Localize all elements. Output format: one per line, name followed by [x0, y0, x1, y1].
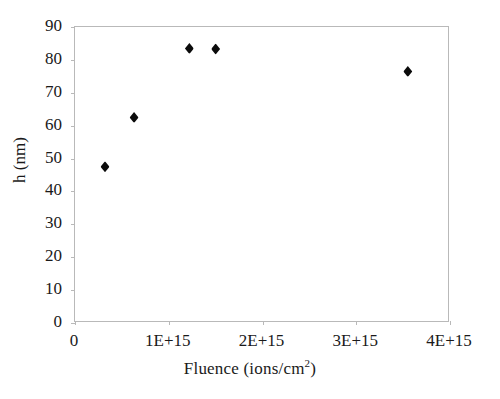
y-tick-mark — [71, 93, 75, 94]
x-tick-label: 3E+15 — [333, 332, 378, 349]
y-tick-mark — [71, 126, 75, 127]
plot-area — [74, 26, 449, 322]
x-tick-label: 1E+15 — [145, 332, 190, 349]
x-tick-mark — [356, 321, 357, 325]
y-tick-mark — [71, 60, 75, 61]
y-tick-mark — [71, 290, 75, 291]
x-tick-mark — [263, 321, 264, 325]
y-tick-mark — [71, 191, 75, 192]
y-tick-mark — [71, 224, 75, 225]
y-tick-label: 80 — [0, 50, 62, 67]
x-tick-mark — [75, 321, 76, 325]
y-tick-mark — [71, 257, 75, 258]
x-tick-label: 4E+15 — [426, 332, 471, 349]
y-tick-mark — [71, 159, 75, 160]
data-point-marker — [101, 161, 110, 172]
x-axis-title: Fluence (ions/cm2) — [0, 359, 500, 379]
data-point-marker — [185, 43, 194, 54]
y-tick-mark — [71, 27, 75, 28]
y-tick-label: 90 — [0, 17, 62, 34]
scatter-chart-figure: h (nm) 0102030405060708090 01E+152E+153E… — [0, 0, 500, 399]
data-point-marker — [130, 112, 139, 123]
x-tick-label: 2E+15 — [239, 332, 284, 349]
data-point-marker — [211, 44, 220, 55]
y-tick-label: 60 — [0, 116, 62, 133]
x-axis-title-tail: ) — [310, 359, 316, 378]
x-axis-title-base: Fluence (ions/cm — [184, 359, 305, 378]
data-point-marker — [403, 66, 412, 77]
y-tick-label: 50 — [0, 149, 62, 166]
y-tick-label: 0 — [0, 313, 62, 330]
x-tick-label: 0 — [70, 332, 79, 349]
x-tick-mark — [450, 321, 451, 325]
y-tick-label: 70 — [0, 83, 62, 100]
y-tick-label: 30 — [0, 214, 62, 231]
y-tick-label: 40 — [0, 181, 62, 198]
x-tick-mark — [169, 321, 170, 325]
y-tick-label: 20 — [0, 247, 62, 264]
y-tick-label: 10 — [0, 280, 62, 297]
